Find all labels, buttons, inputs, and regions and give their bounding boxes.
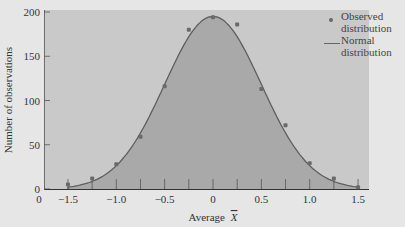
observed-point [332, 176, 336, 180]
y-tick-label: 0 [35, 183, 41, 195]
legend-label-observed: Observed distribution [341, 10, 405, 34]
x-tick-label: 1.5 [351, 193, 365, 205]
y-tick-label: 200 [24, 6, 41, 18]
observed-point [90, 176, 94, 180]
observed-point [308, 161, 312, 165]
observed-point [356, 185, 360, 189]
x-tick-label: 0 [210, 193, 216, 205]
observed-point [284, 123, 288, 127]
line-icon [324, 43, 340, 44]
observed-point [187, 28, 191, 32]
legend: Observed distribution Normal distributio… [323, 10, 405, 58]
x-tick-label: −1.5 [58, 193, 78, 205]
x-tick-label: 0.5 [254, 193, 268, 205]
observed-point [138, 135, 142, 139]
x-axis-title-symbol: X [230, 211, 239, 223]
observed-point [66, 183, 70, 187]
y-tick-label: 50 [29, 139, 41, 151]
legend-item-observed: Observed distribution [323, 10, 405, 34]
observed-point [211, 15, 215, 19]
x-axis-title: Average X [189, 211, 239, 223]
legend-label-normal: Normal distribution [341, 34, 405, 58]
x-tick-labels: 0−1.5−1.0−0.500.51.01.5 [36, 193, 365, 205]
observed-point [235, 22, 239, 26]
legend-item-normal: Normal distribution [323, 34, 405, 58]
x-axis-title-text: Average [189, 211, 226, 223]
x-tick-label: −1.0 [106, 193, 126, 205]
y-tick-label: 150 [24, 50, 41, 62]
y-axis-title: Number of observations [2, 47, 14, 153]
observed-point [259, 87, 263, 91]
dot-icon [329, 18, 333, 22]
x-tick-label: −0.5 [155, 193, 175, 205]
observed-point [163, 84, 167, 88]
y-tick-label: 100 [24, 95, 41, 107]
x-tick-label: 1.0 [303, 193, 317, 205]
y-tick-labels: 050100150200 [24, 6, 41, 195]
observed-point [114, 162, 118, 166]
